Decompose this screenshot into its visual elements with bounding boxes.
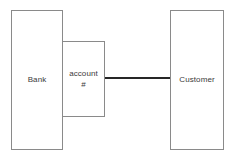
attribute-label-account-number: account # — [69, 68, 98, 90]
attribute-box-account-number[interactable]: account # — [62, 41, 105, 117]
entity-box-bank[interactable]: Bank — [11, 10, 63, 150]
diagram-canvas: Bank account # Customer — [0, 0, 243, 157]
entity-box-customer[interactable]: Customer — [170, 10, 224, 150]
entity-label-customer: Customer — [179, 75, 214, 85]
connector-line-account-to-customer — [104, 77, 171, 79]
entity-label-bank: Bank — [28, 75, 47, 85]
